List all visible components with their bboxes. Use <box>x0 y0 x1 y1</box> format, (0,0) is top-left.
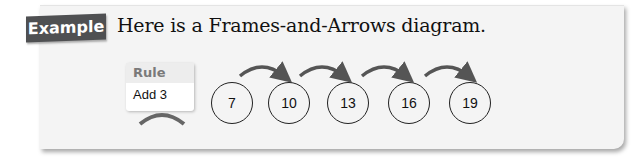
frame-2: 10 <box>268 82 310 124</box>
frame-3: 13 <box>327 82 369 124</box>
arrows-layer <box>0 0 638 158</box>
arrow-icon <box>300 67 344 76</box>
arrow-icon <box>362 67 406 76</box>
rule-arrow-icon <box>140 115 184 124</box>
arrow-icon <box>425 67 469 76</box>
frame-5: 19 <box>449 82 491 124</box>
frame-4: 16 <box>388 82 430 124</box>
frame-1: 7 <box>211 82 253 124</box>
arrow-icon <box>240 67 284 76</box>
